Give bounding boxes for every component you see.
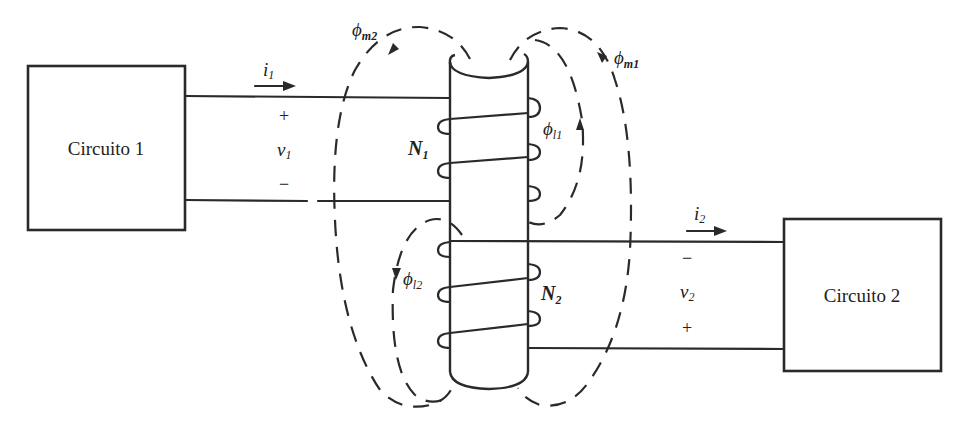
flux-l1-label: ϕl1 [543, 118, 562, 142]
current-i1-arrow [255, 81, 296, 91]
v1-plus-sign: + [279, 106, 289, 126]
winding-n1-label: N1 [407, 137, 428, 162]
current-i2-arrow [687, 226, 727, 236]
voltage-v1-label: v1 [277, 139, 291, 162]
flux-m1-label: ϕm1 [614, 47, 639, 71]
circuit-2-block: Circuito 2 [784, 219, 941, 371]
v2-minus-sign: − [682, 248, 692, 268]
v2-plus-sign: + [682, 318, 692, 338]
current-i2-label: i2 [694, 203, 705, 226]
port-2-wires [450, 241, 784, 349]
secondary-winding [438, 242, 540, 348]
circuit-1-block: Circuito 1 [28, 66, 185, 230]
voltage-v2-label: v2 [680, 281, 694, 304]
flux-m2-label: ϕm2 [352, 19, 377, 43]
circuit-2-label: Circuito 2 [824, 285, 901, 306]
leakage-flux-l1-path: ϕl1 [522, 40, 584, 224]
port-2-labels: i2 − v2 + [680, 203, 727, 338]
winding-n2-label: N2 [540, 282, 561, 307]
coupled-circuits-diagram: Circuito 1 Circuito 2 i1 + v1 − i2 − v2 … [0, 0, 966, 446]
circuit-1-label: Circuito 1 [68, 138, 145, 159]
current-i1-label: i1 [263, 59, 274, 82]
port-1-labels: i1 + v1 − [255, 59, 296, 194]
flux-l2-label: ϕl2 [403, 268, 422, 292]
v1-minus-sign: − [279, 174, 289, 194]
magnetic-core [450, 54, 528, 389]
primary-winding [438, 98, 540, 201]
